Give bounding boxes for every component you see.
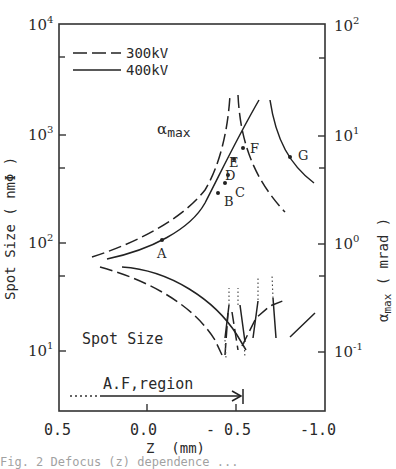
x-axis-title: Z (mm) <box>146 440 205 456</box>
left-axis-title: Spot Size ( nmΦ ) <box>2 157 18 300</box>
alpha-400kv-right-2 <box>270 100 314 183</box>
alpha-400kv-right <box>245 0 279 129</box>
svg-text:100: 100 <box>334 233 359 253</box>
svg-text:C: C <box>235 185 245 200</box>
legend-label-400kv: 400kV <box>126 62 169 78</box>
right-axis-title: αmax ( mrad ) <box>375 218 394 322</box>
spot-size-label: Spot Size <box>82 330 163 348</box>
svg-text:- 0.5: - 0.5 <box>206 421 251 439</box>
x-axis-ticks <box>147 404 236 411</box>
svg-text:0.0: 0.0 <box>130 421 157 439</box>
af-region: A.F,region <box>70 375 243 404</box>
svg-text:-1.0: -1.0 <box>300 421 336 439</box>
legend: 300kV 400kV <box>73 45 169 78</box>
svg-text:101: 101 <box>334 125 359 145</box>
svg-text:D: D <box>225 168 235 183</box>
alpha-300kv-right <box>238 95 285 212</box>
right-axis-ticks <box>318 58 325 352</box>
svg-text:10-1: 10-1 <box>334 341 363 361</box>
alpha-max-label: αmax <box>157 120 191 140</box>
left-axis-labels: 104 103 102 101 <box>28 14 53 360</box>
svg-text:G: G <box>298 148 308 163</box>
legend-label-300kv: 300kV <box>126 45 169 61</box>
figure-caption: Fig. 2 Defocus (z) dependence ... <box>0 455 396 469</box>
svg-text:101: 101 <box>28 340 53 360</box>
right-axis-labels: 102 101 100 10-1 <box>334 15 363 361</box>
point-labels: A B C D E F G <box>156 141 308 261</box>
svg-text:F: F <box>250 141 259 156</box>
x-axis-labels: 0.5 0.0 - 0.5 -1.0 <box>44 421 336 439</box>
svg-text:A: A <box>156 246 167 261</box>
left-axis-ticks <box>59 57 66 351</box>
svg-text:0.5: 0.5 <box>44 421 71 439</box>
svg-text:102: 102 <box>28 232 53 252</box>
svg-text:103: 103 <box>28 124 53 144</box>
alpha-max-curves <box>92 0 314 259</box>
svg-text:102: 102 <box>334 15 359 35</box>
svg-text:B: B <box>224 194 234 209</box>
plot-frame <box>59 24 325 411</box>
svg-text:E: E <box>229 155 239 170</box>
af-region-label: A.F,region <box>103 375 193 393</box>
alpha-400kv-left <box>107 100 259 259</box>
svg-text:104: 104 <box>28 14 53 34</box>
